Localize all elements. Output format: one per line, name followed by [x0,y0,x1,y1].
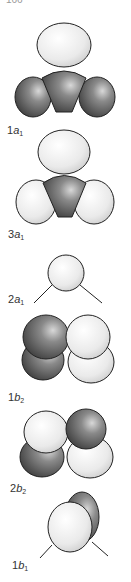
orbital-label-1b1: 1b1 [12,559,28,572]
orbital-label-2a1: 2a1 [8,293,24,306]
orbital-1b2 [22,315,114,383]
orbital-2b2 [20,409,113,478]
orbital-1a1 [15,23,115,117]
orbital-3a1 [16,130,114,224]
orbital-1b1 [40,492,108,558]
orbital-label-3a1: 3a1 [8,228,24,241]
orbital-label-2b2: 2b2 [10,482,26,495]
orbital-2a1 [34,255,102,303]
orbital-label-1a1: 1a1 [7,124,23,137]
orbital-label-1b2: 1b2 [8,391,24,404]
